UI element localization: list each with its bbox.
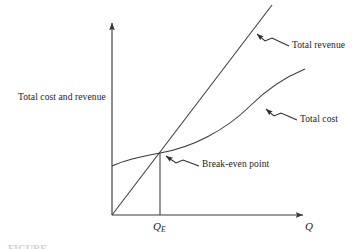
- x-tick-label-qe: QE: [153, 221, 166, 234]
- annotation-break-even-point: Break-even point: [202, 159, 269, 171]
- figure-caption-clipped: FIGURE: [8, 243, 218, 249]
- y-axis-label: Total cost and revenue: [18, 92, 110, 104]
- break-even-leader: [166, 156, 199, 166]
- total-cost-leader: [266, 109, 297, 120]
- annotation-total-revenue: Total revenue: [292, 40, 345, 52]
- total-revenue-leader: [257, 34, 289, 46]
- break-even-chart-figure: Total cost and revenue Total revenue Tot…: [0, 0, 360, 249]
- qe-subscript: E: [161, 225, 166, 234]
- total-cost-curve: [112, 69, 305, 166]
- annotation-total-cost: Total cost: [300, 114, 338, 126]
- x-axis-variable-label: Q: [305, 221, 313, 233]
- total-revenue-line: [112, 5, 272, 215]
- qe-symbol: Q: [153, 220, 161, 232]
